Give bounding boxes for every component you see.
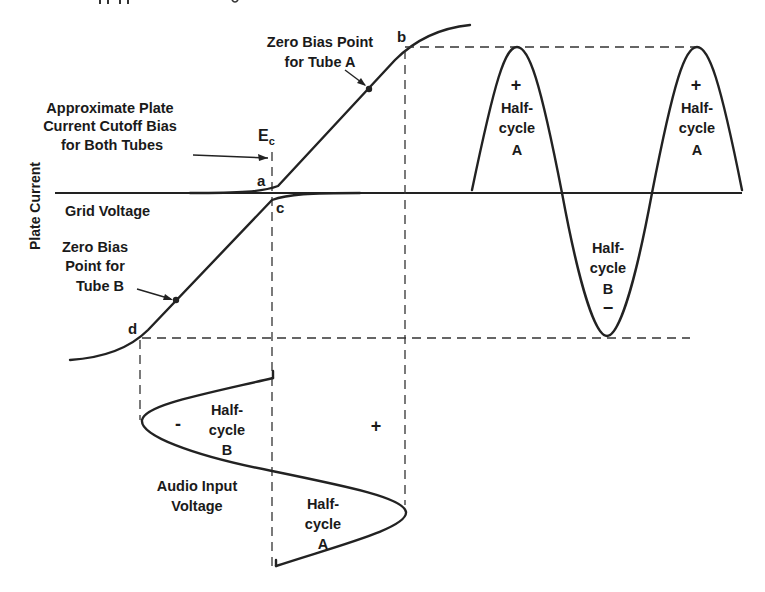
audio-input-label-line-1: Audio Input [157, 478, 238, 494]
input-half-cycle-a-line-3: A [318, 536, 329, 552]
cutoff-label-line-3: for Both Tubes [61, 137, 163, 153]
zero-bias-point-tube-b: Zero Bias Point for Tube B [62, 239, 179, 303]
point-a-label: a [257, 172, 266, 189]
output-half-cycle-a-1: + Half- cycle A [499, 75, 535, 158]
point-c-label: c [276, 199, 284, 216]
zero-bias-b-label-line-3: Tube B [76, 278, 124, 294]
clipped-heading-remnant [100, 0, 238, 4]
point-d-label: d [128, 320, 137, 337]
cutoff-arrow-head [258, 154, 268, 161]
half-cycle-a2-line-1: Half- [681, 100, 713, 116]
input-half-cycle-b-sign: - [175, 414, 181, 434]
plate-current-axis-label: Plate Current [27, 162, 43, 250]
audio-input-label-line-2: Voltage [171, 498, 222, 514]
zero-bias-b-label-line-2: Point for [65, 258, 125, 274]
input-half-cycle-b-line-1: Half- [211, 402, 243, 418]
cutoff-annotation: Approximate Plate Current Cutoff Bias fo… [43, 100, 268, 161]
point-b-label: b [397, 28, 406, 45]
half-cycle-b-line-1: Half- [592, 240, 624, 256]
zero-bias-point-tube-a: Zero Bias Point for Tube A [267, 34, 374, 92]
zero-bias-b-label-line-1: Zero Bias [62, 239, 128, 255]
input-half-cycle-b-line-3: B [222, 442, 232, 458]
half-cycle-a2-sign: + [691, 75, 702, 95]
input-half-cycle-a-line-1: Half- [307, 496, 339, 512]
grid-voltage-label: Grid Voltage [65, 203, 150, 219]
zero-bias-a-dot [366, 86, 372, 92]
input-half-cycle-a: + Half- cycle A [305, 416, 381, 552]
cutoff-label-line-1: Approximate Plate [46, 100, 173, 116]
half-cycle-a1-line-3: A [512, 142, 523, 158]
input-half-cycle-a-sign: + [371, 416, 382, 436]
audio-input-waveform [142, 378, 406, 566]
zero-bias-a-label-line-1: Zero Bias Point [267, 34, 374, 50]
input-half-cycle-b-line-2: cycle [209, 422, 245, 438]
ec-symbol: Ec [258, 127, 275, 147]
half-cycle-b-line-3: B [603, 281, 613, 297]
zero-bias-b-dot [173, 297, 179, 303]
input-half-cycle-a-line-2: cycle [305, 516, 341, 532]
tube-a-characteristic-curve [190, 25, 470, 193]
half-cycle-a2-line-3: A [692, 142, 703, 158]
half-cycle-a1-line-1: Half- [501, 100, 533, 116]
push-pull-transfer-diagram: Plate Current Grid Voltage Ec Approximat… [0, 0, 765, 592]
half-cycle-a1-line-2: cycle [499, 120, 535, 136]
half-cycle-a2-line-2: cycle [679, 120, 715, 136]
output-half-cycle-a-2: + Half- cycle A [679, 75, 715, 158]
half-cycle-a1-sign: + [511, 75, 522, 95]
zero-bias-a-label-line-2: for Tube A [285, 54, 356, 70]
cutoff-arrow-shaft [193, 155, 268, 158]
cutoff-label-line-2: Current Cutoff Bias [43, 118, 177, 134]
half-cycle-b-sign: − [603, 298, 614, 318]
half-cycle-b-line-2: cycle [590, 260, 626, 276]
output-half-cycle-b: Half- cycle B − [590, 240, 626, 318]
zero-bias-b-arrow-head [163, 294, 173, 300]
